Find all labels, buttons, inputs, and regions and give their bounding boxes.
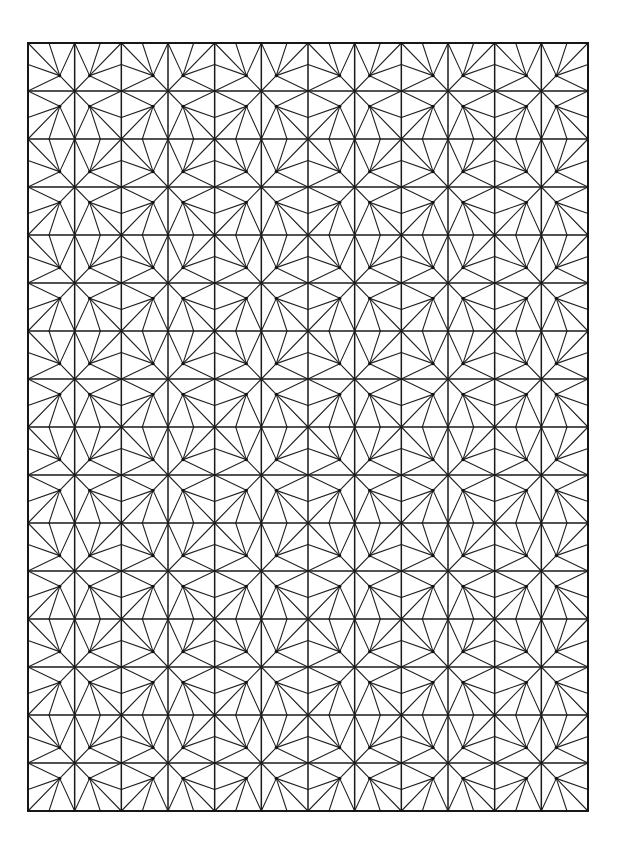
- hub-point: [525, 105, 528, 108]
- hub-point: [151, 74, 154, 77]
- hub-point: [338, 266, 341, 269]
- hub-point: [151, 266, 154, 269]
- hub-point: [275, 362, 278, 365]
- hub-point: [151, 201, 154, 204]
- hub-point: [245, 297, 248, 300]
- hub-point: [461, 585, 464, 588]
- hub-point: [245, 74, 248, 77]
- hub-point: [245, 201, 248, 204]
- hub-point: [555, 489, 558, 492]
- hub-point: [245, 681, 248, 684]
- hub-point: [181, 105, 184, 108]
- hub-point: [58, 746, 61, 749]
- hub-point: [525, 297, 528, 300]
- hub-point: [525, 393, 528, 396]
- hub-point: [368, 362, 371, 365]
- hub-point: [181, 554, 184, 557]
- hub-point: [181, 489, 184, 492]
- hub-point: [525, 681, 528, 684]
- hub-point: [88, 681, 91, 684]
- hub-point: [151, 393, 154, 396]
- hub-point: [275, 201, 278, 204]
- hub-point: [368, 585, 371, 588]
- hub-point: [58, 105, 61, 108]
- hub-point: [245, 746, 248, 749]
- hub-point: [58, 170, 61, 173]
- hub-point: [525, 650, 528, 653]
- hub-point: [461, 554, 464, 557]
- hub-point: [461, 362, 464, 365]
- hub-point: [181, 458, 184, 461]
- hub-point: [461, 681, 464, 684]
- hub-point: [525, 362, 528, 365]
- hub-point: [151, 746, 154, 749]
- hub-point: [58, 489, 61, 492]
- hub-point: [58, 266, 61, 269]
- hub-point: [338, 777, 341, 780]
- hub-point: [368, 650, 371, 653]
- hub-point: [525, 746, 528, 749]
- hub-point: [525, 489, 528, 492]
- hub-point: [58, 393, 61, 396]
- hub-point: [275, 105, 278, 108]
- hub-point: [88, 650, 91, 653]
- hub-point: [245, 554, 248, 557]
- hub-point: [245, 105, 248, 108]
- hub-point: [88, 201, 91, 204]
- hub-point: [245, 393, 248, 396]
- hub-point: [431, 201, 434, 204]
- hub-point: [555, 746, 558, 749]
- hub-point: [431, 74, 434, 77]
- hub-point: [181, 681, 184, 684]
- hub-point: [461, 201, 464, 204]
- hub-point: [368, 170, 371, 173]
- hub-point: [431, 489, 434, 492]
- hub-point: [275, 170, 278, 173]
- hub-point: [338, 170, 341, 173]
- hub-point: [58, 777, 61, 780]
- hub-point: [555, 458, 558, 461]
- hub-point: [181, 585, 184, 588]
- hub-point: [181, 650, 184, 653]
- hub-point: [431, 297, 434, 300]
- hub-point: [431, 777, 434, 780]
- hub-point: [461, 458, 464, 461]
- hub-point: [151, 458, 154, 461]
- hub-point: [88, 362, 91, 365]
- hub-point: [245, 489, 248, 492]
- hub-point: [88, 297, 91, 300]
- hub-point: [88, 585, 91, 588]
- hub-point: [431, 585, 434, 588]
- hub-point: [151, 650, 154, 653]
- hub-point: [338, 746, 341, 749]
- hub-point: [275, 746, 278, 749]
- hub-point: [58, 554, 61, 557]
- hub-point: [461, 393, 464, 396]
- hub-point: [58, 681, 61, 684]
- hub-point: [431, 393, 434, 396]
- hub-point: [368, 266, 371, 269]
- hub-point: [275, 393, 278, 396]
- hub-point: [368, 746, 371, 749]
- hub-point: [368, 105, 371, 108]
- hub-point: [461, 777, 464, 780]
- hub-point: [338, 554, 341, 557]
- hub-point: [151, 777, 154, 780]
- hub-point: [245, 170, 248, 173]
- hub-point: [555, 266, 558, 269]
- hub-point: [88, 489, 91, 492]
- hub-point: [431, 170, 434, 173]
- hub-point: [181, 74, 184, 77]
- hub-point: [338, 362, 341, 365]
- hub-point: [245, 266, 248, 269]
- hub-point: [58, 458, 61, 461]
- hub-point: [525, 74, 528, 77]
- hub-point: [88, 170, 91, 173]
- hub-point: [368, 74, 371, 77]
- hub-point: [555, 681, 558, 684]
- hub-point: [368, 489, 371, 492]
- hub-point: [151, 554, 154, 557]
- hub-point: [88, 554, 91, 557]
- hub-point: [275, 681, 278, 684]
- hub-point: [461, 746, 464, 749]
